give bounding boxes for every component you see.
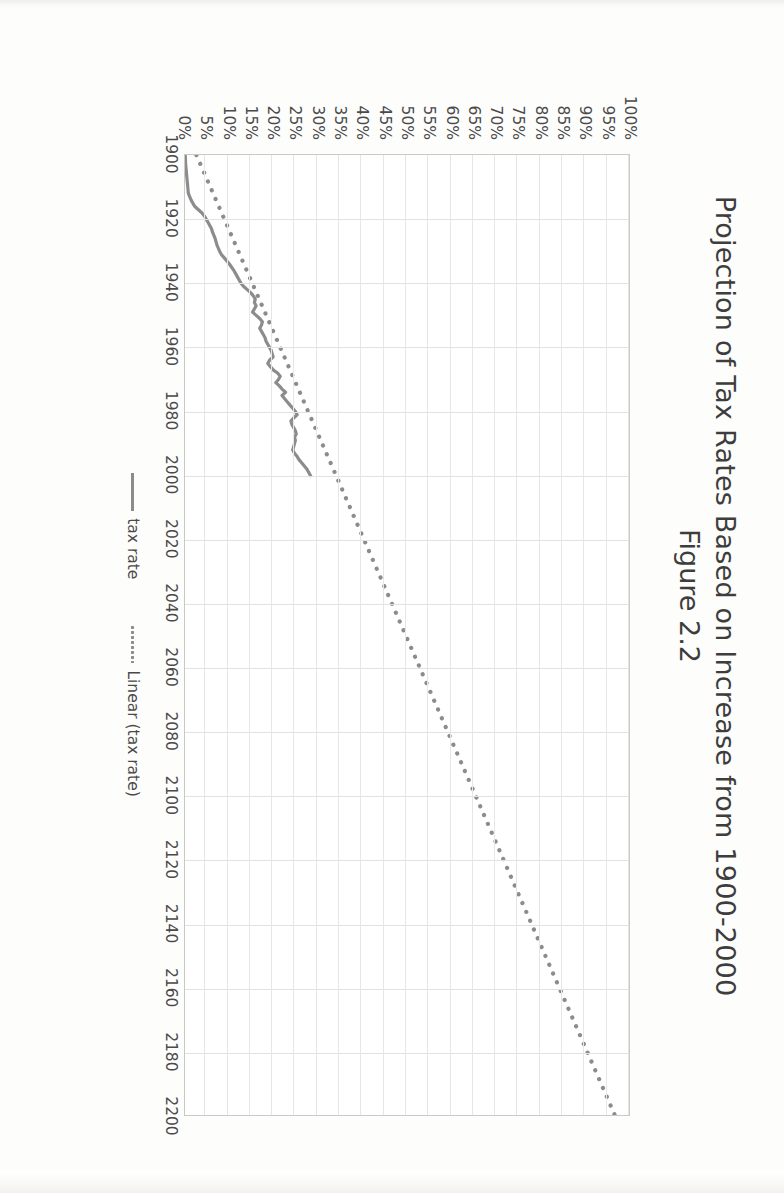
y-tick-label: 5% bbox=[197, 115, 215, 140]
gridline-horizontal bbox=[316, 155, 317, 1115]
y-tick-label: 15% bbox=[242, 106, 260, 140]
x-tick-label: 1920 bbox=[162, 198, 180, 237]
y-tick-label: 55% bbox=[420, 106, 438, 140]
x-tick-label: 2180 bbox=[162, 1032, 180, 1071]
y-tick-label: 35% bbox=[331, 106, 349, 140]
gridline-horizontal bbox=[472, 155, 473, 1115]
legend-label-linear-tax-rate: Linear (tax rate) bbox=[124, 670, 142, 796]
y-axis-tick-labels: 0%5%10%15%20%25%30%35%40%45%50%55%60%65%… bbox=[184, 36, 630, 148]
gridline-horizontal bbox=[583, 155, 584, 1115]
legend-item-tax-rate: tax rate bbox=[124, 473, 142, 579]
x-tick-label: 2040 bbox=[162, 583, 180, 622]
x-tick-label: 2160 bbox=[162, 968, 180, 1007]
x-tick-label: 1960 bbox=[162, 327, 180, 366]
gridline-horizontal bbox=[539, 155, 540, 1115]
gridline-vertical bbox=[185, 219, 629, 220]
x-tick-label: 2060 bbox=[162, 647, 180, 686]
gridline-horizontal bbox=[606, 155, 607, 1115]
gridline-vertical bbox=[185, 347, 629, 348]
gridline-vertical bbox=[185, 476, 629, 477]
gridline-horizontal bbox=[628, 155, 629, 1115]
rotated-chart-container: Projection of Tax Rates Based on Increas… bbox=[42, 36, 742, 1156]
x-tick-label: 2000 bbox=[162, 455, 180, 494]
y-tick-label: 95% bbox=[599, 106, 617, 140]
series-layer bbox=[184, 155, 629, 1116]
legend-label-tax-rate: tax rate bbox=[124, 518, 142, 579]
y-tick-label: 40% bbox=[353, 106, 371, 140]
y-tick-label: 80% bbox=[532, 106, 550, 140]
y-tick-label: 60% bbox=[443, 106, 461, 140]
gridline-horizontal bbox=[383, 155, 384, 1115]
gridline-vertical bbox=[185, 1053, 629, 1054]
y-tick-label: 100% bbox=[621, 96, 639, 140]
x-tick-label: 2080 bbox=[162, 711, 180, 750]
scan-edge-top bbox=[0, 0, 784, 10]
gridline-vertical bbox=[185, 925, 629, 926]
y-tick-label: 20% bbox=[264, 106, 282, 140]
gridline-horizontal bbox=[271, 155, 272, 1115]
chart-subtitle: Figure 2.2 bbox=[674, 36, 705, 1156]
y-tick-label: 70% bbox=[487, 106, 505, 140]
gridline-horizontal bbox=[405, 155, 406, 1115]
plot-area bbox=[184, 154, 630, 1116]
gridline-vertical bbox=[185, 668, 629, 669]
gridline-horizontal bbox=[338, 155, 339, 1115]
x-tick-label: 2140 bbox=[162, 904, 180, 943]
plot-block bbox=[184, 154, 630, 1116]
gridline-vertical bbox=[185, 540, 629, 541]
x-axis-tick-labels: 1900192019401960198020002020204020602080… bbox=[152, 154, 182, 1116]
gridline-vertical bbox=[185, 989, 629, 990]
dotted-line-swatch-icon bbox=[132, 625, 135, 663]
gridline-vertical bbox=[185, 796, 629, 797]
y-tick-label: 45% bbox=[376, 106, 394, 140]
gridline-horizontal bbox=[427, 155, 428, 1115]
y-tick-label: 75% bbox=[510, 106, 528, 140]
x-tick-label: 2020 bbox=[162, 519, 180, 558]
y-tick-label: 10% bbox=[220, 106, 238, 140]
y-tick-label: 50% bbox=[398, 106, 416, 140]
y-tick-label: 25% bbox=[287, 106, 305, 140]
y-tick-label: 90% bbox=[576, 106, 594, 140]
gridline-horizontal bbox=[249, 155, 250, 1115]
chart-title: Projection of Tax Rates Based on Increas… bbox=[707, 36, 742, 1156]
chart-legend: tax rate Linear (tax rate) bbox=[124, 154, 142, 1116]
gridline-horizontal bbox=[561, 155, 562, 1115]
gridline-horizontal bbox=[360, 155, 361, 1115]
gridline-horizontal bbox=[450, 155, 451, 1115]
series-dotted bbox=[196, 155, 615, 1116]
gridline-vertical bbox=[185, 732, 629, 733]
scanned-page: Projection of Tax Rates Based on Increas… bbox=[0, 0, 784, 1193]
gridline-horizontal bbox=[494, 155, 495, 1115]
gridline-horizontal bbox=[204, 155, 205, 1115]
x-tick-label: 1980 bbox=[162, 391, 180, 430]
x-tick-label: 1900 bbox=[162, 134, 180, 173]
y-tick-label: 30% bbox=[309, 106, 327, 140]
scan-edge-bottom bbox=[0, 1171, 784, 1193]
gridline-vertical bbox=[185, 604, 629, 605]
gridline-vertical bbox=[185, 860, 629, 861]
x-tick-label: 2100 bbox=[162, 776, 180, 815]
y-tick-label: 65% bbox=[465, 106, 483, 140]
solid-line-swatch-icon bbox=[132, 473, 135, 511]
legend-item-linear-tax-rate: Linear (tax rate) bbox=[124, 625, 142, 796]
gridline-vertical bbox=[185, 412, 629, 413]
gridline-vertical bbox=[185, 283, 629, 284]
gridline-horizontal bbox=[227, 155, 228, 1115]
x-tick-label: 2200 bbox=[162, 1096, 180, 1135]
gridline-horizontal bbox=[294, 155, 295, 1115]
gridline-horizontal bbox=[517, 155, 518, 1115]
x-tick-label: 2120 bbox=[162, 840, 180, 879]
x-tick-label: 1940 bbox=[162, 263, 180, 302]
y-tick-label: 85% bbox=[554, 106, 572, 140]
